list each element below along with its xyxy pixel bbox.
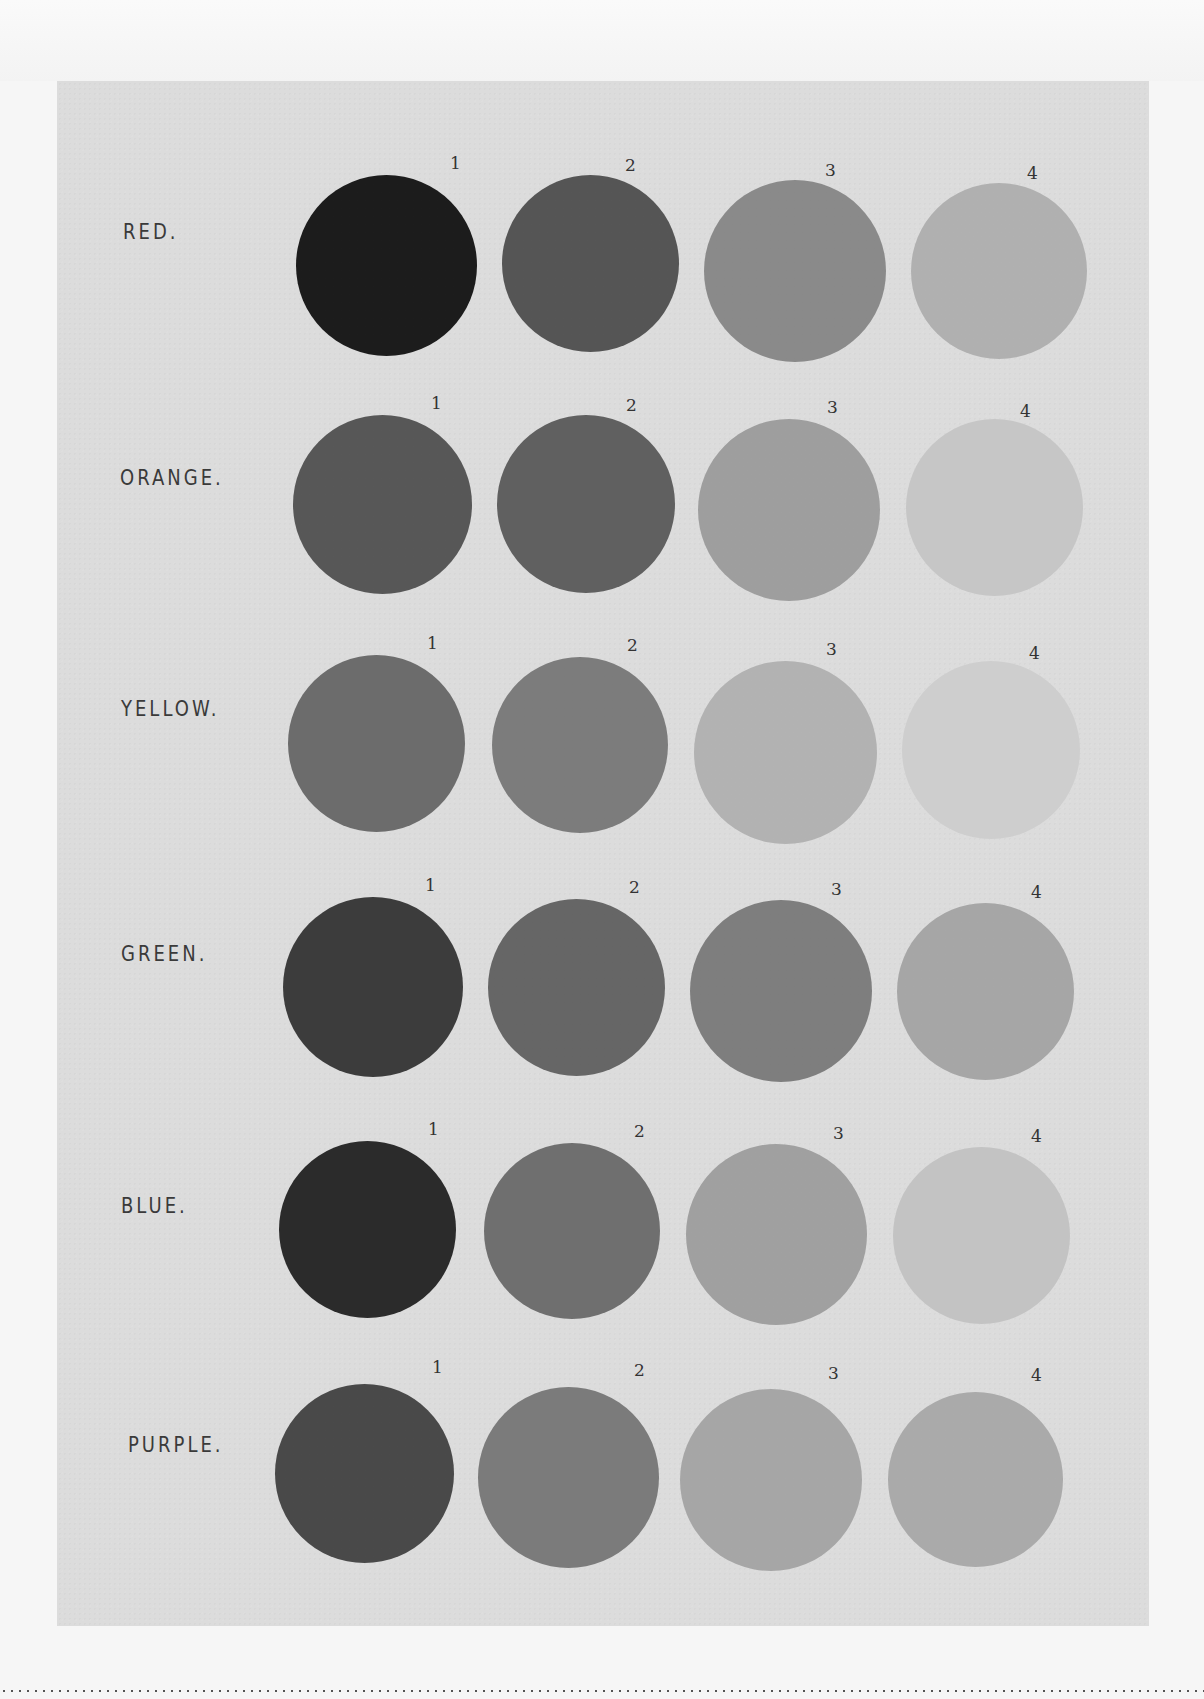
- swatch-number-purple-1: 1: [432, 1357, 443, 1377]
- swatch-green-1: [283, 897, 463, 1077]
- color-chart-plate: RED.1234ORANGE.1234YELLOW.1234GREEN.1234…: [57, 81, 1149, 1626]
- swatch-number-red-2: 2: [625, 155, 636, 175]
- swatch-number-orange-2: 2: [626, 395, 637, 415]
- swatch-number-yellow-3: 3: [826, 639, 837, 659]
- swatch-green-2: [488, 899, 665, 1076]
- swatch-purple-1: [275, 1384, 454, 1563]
- swatch-number-blue-1: 1: [428, 1119, 439, 1139]
- swatch-number-yellow-1: 1: [427, 633, 438, 653]
- row-label-purple: PURPLE.: [128, 1432, 224, 1456]
- swatch-yellow-4: [902, 661, 1080, 839]
- swatch-number-orange-3: 3: [827, 397, 838, 417]
- swatch-red-4: [911, 183, 1087, 359]
- swatch-red-3: [704, 180, 886, 362]
- swatch-purple-2: [478, 1387, 659, 1568]
- swatch-number-orange-1: 1: [431, 393, 442, 413]
- dotted-page-border: [0, 1689, 1204, 1693]
- swatch-yellow-1: [288, 655, 465, 832]
- swatch-yellow-2: [492, 657, 668, 833]
- swatch-yellow-3: [694, 661, 877, 844]
- swatch-number-blue-2: 2: [634, 1121, 645, 1141]
- swatch-number-green-2: 2: [629, 877, 640, 897]
- swatch-blue-2: [484, 1143, 660, 1319]
- swatch-orange-4: [906, 419, 1083, 596]
- swatch-number-red-4: 4: [1027, 163, 1038, 183]
- row-label-yellow: YELLOW.: [121, 696, 219, 720]
- row-label-orange: ORANGE.: [120, 465, 224, 489]
- swatch-number-yellow-2: 2: [627, 635, 638, 655]
- swatch-number-blue-3: 3: [833, 1123, 844, 1143]
- swatch-blue-1: [279, 1141, 456, 1318]
- swatch-number-purple-3: 3: [828, 1363, 839, 1383]
- swatch-red-2: [502, 175, 679, 352]
- swatch-blue-4: [893, 1147, 1070, 1324]
- swatch-purple-3: [680, 1389, 862, 1571]
- swatch-number-green-1: 1: [425, 875, 436, 895]
- swatch-red-1: [296, 175, 477, 356]
- swatch-blue-3: [686, 1144, 867, 1325]
- swatch-number-blue-4: 4: [1031, 1126, 1042, 1146]
- swatch-number-green-4: 4: [1031, 882, 1042, 902]
- page-margin-top: [0, 0, 1204, 81]
- swatch-green-3: [690, 900, 872, 1082]
- swatch-number-red-3: 3: [825, 160, 836, 180]
- swatch-orange-1: [293, 415, 472, 594]
- swatch-number-orange-4: 4: [1020, 401, 1031, 421]
- row-label-blue: BLUE.: [121, 1193, 188, 1217]
- row-label-green: GREEN.: [121, 941, 207, 965]
- row-label-red: RED.: [123, 219, 178, 243]
- swatch-number-yellow-4: 4: [1029, 643, 1040, 663]
- swatch-number-red-1: 1: [450, 153, 461, 173]
- swatch-orange-3: [698, 419, 880, 601]
- swatch-number-green-3: 3: [831, 879, 842, 899]
- swatch-number-purple-4: 4: [1031, 1365, 1042, 1385]
- swatch-green-4: [897, 903, 1074, 1080]
- swatch-number-purple-2: 2: [634, 1360, 645, 1380]
- swatch-purple-4: [888, 1392, 1063, 1567]
- swatch-orange-2: [497, 415, 675, 593]
